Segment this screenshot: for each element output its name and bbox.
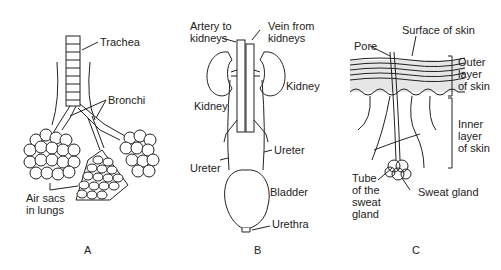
label-kidney-right: Kidney [286, 80, 320, 92]
kidneys-drawing [207, 30, 285, 232]
label-inner-layer: Inner layer of skin [458, 118, 490, 154]
label-artery: Artery to kidneys [190, 20, 232, 44]
label-pore: Pore [354, 40, 377, 52]
label-trachea: Trachea [100, 36, 140, 48]
label-ureter-right: Ureter [274, 144, 305, 156]
label-bladder: Bladder [270, 186, 308, 198]
label-sweat-gland: Sweat gland [418, 186, 479, 198]
caption-a: A [84, 244, 91, 256]
skin-drawing [350, 36, 465, 190]
label-bronchi: Bronchi [108, 94, 145, 106]
caption-c: C [412, 244, 420, 256]
label-ureter-left: Ureter [190, 162, 221, 174]
label-vein: Vein from kidneys [268, 20, 314, 44]
caption-b: B [254, 244, 261, 256]
label-urethra: Urethra [272, 218, 309, 230]
diagram-artwork [0, 0, 501, 270]
label-surface: Surface of skin [402, 24, 475, 36]
lungs-drawing [24, 36, 159, 200]
label-air-sacs: Air sacs in lungs [26, 192, 65, 216]
label-kidney-left: Kidney [194, 100, 228, 112]
label-outer-layer: Outer layer of skin [458, 56, 490, 92]
label-tube: Tube of the sweat gland [352, 172, 381, 220]
